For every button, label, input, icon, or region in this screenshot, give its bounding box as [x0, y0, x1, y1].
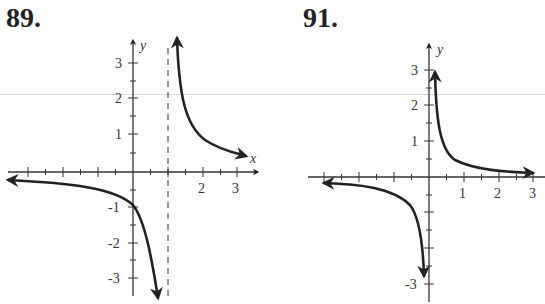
x-tick-3: 3: [232, 181, 239, 196]
curve-right-branch: [177, 38, 246, 156]
y-tick-neg2: -2: [108, 236, 120, 251]
y-tick-3: 3: [115, 56, 122, 71]
curve-left-branch: [324, 183, 424, 276]
x-tick-2: 2: [494, 186, 501, 201]
x-axis-label: x: [249, 151, 257, 166]
curve-left-branch: [8, 180, 158, 298]
y-axis-label: y: [138, 38, 147, 53]
graph-91: y 1 2 3 3 2 1 -3: [308, 42, 545, 302]
y-tick-2: 2: [115, 91, 122, 106]
graphs-canvas: y x 2 3 3 2 1 -1 -2 -3: [0, 0, 545, 304]
y-tick-neg1: -1: [108, 200, 120, 215]
y-axis-label: y: [435, 42, 444, 57]
y-tick-neg3: -3: [108, 271, 120, 286]
y-tick-1: 1: [411, 134, 418, 149]
y-tick-2: 2: [411, 98, 418, 113]
y-tick-neg3: -3: [405, 277, 417, 292]
curve-right-branch: [435, 72, 533, 173]
x-tick-2: 2: [198, 181, 205, 196]
x-tick-1: 1: [459, 186, 466, 201]
y-tick-1: 1: [115, 127, 122, 142]
x-tick-3: 3: [529, 186, 536, 201]
graph-89: y x 2 3 3 2 1 -1 -2 -3: [8, 38, 258, 298]
y-tick-3: 3: [411, 63, 418, 78]
